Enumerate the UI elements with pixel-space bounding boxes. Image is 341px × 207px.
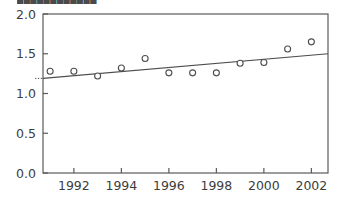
x-tick-label: 1996: [153, 178, 185, 193]
x-tick-label: 2002: [295, 178, 327, 193]
y-tick-label: 1.0: [16, 86, 36, 101]
data-point: [95, 73, 101, 79]
y-tick-label: 1.5: [16, 46, 36, 61]
x-tick-label: 1998: [200, 178, 232, 193]
chart-figure: ████████████ 0.00.51.01.52.0199219941996…: [0, 0, 341, 207]
x-tick-label: 1992: [58, 178, 90, 193]
data-point: [308, 39, 314, 45]
scatter-plot: 0.00.51.01.52.0199219941996199820002002: [0, 0, 341, 207]
data-point: [47, 68, 53, 74]
plot-frame: [43, 14, 328, 173]
x-tick-label: 2000: [248, 178, 280, 193]
x-tick-label: 1994: [105, 178, 137, 193]
y-tick-label: 0.5: [16, 126, 36, 141]
data-point: [237, 60, 243, 66]
data-point: [285, 46, 291, 52]
data-point: [142, 56, 148, 62]
data-point: [118, 65, 124, 71]
data-point: [190, 70, 196, 76]
data-point: [213, 70, 219, 76]
y-tick-label: 2.0: [16, 7, 36, 22]
data-point: [166, 70, 172, 76]
trend-line: [43, 54, 328, 79]
y-tick-label: 0.0: [16, 166, 36, 181]
data-point: [71, 68, 77, 74]
data-point: [261, 59, 267, 65]
